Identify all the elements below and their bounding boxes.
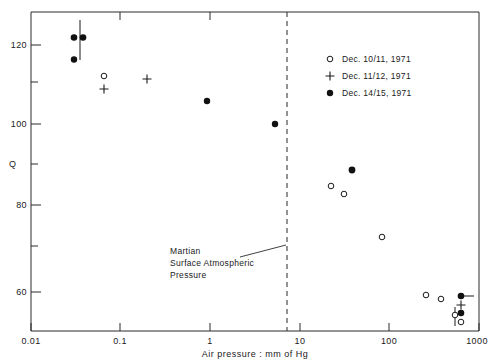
y-axis-title: Q xyxy=(9,159,17,169)
x-tick-label-1: 1 xyxy=(207,336,212,346)
plot-frame xyxy=(31,12,479,331)
scatter-chart-figure: 120 100 80 60 Q 0.01 0.1 1 10 100 1000 xyxy=(0,0,488,362)
annotation-line-3: Pressure xyxy=(170,270,206,280)
y-tick-label-80: 80 xyxy=(16,200,27,210)
data-point-filled xyxy=(349,167,356,174)
data-point-plus xyxy=(457,301,466,310)
data-point-open xyxy=(438,296,444,302)
chart-canvas: 120 100 80 60 Q 0.01 0.1 1 10 100 1000 xyxy=(0,0,488,362)
legend-label-dec-10-11: Dec. 10/11, 1971 xyxy=(342,54,411,64)
x-axis-title: Air pressure : mm of Hg xyxy=(202,349,309,359)
x-axis-ticks xyxy=(31,12,479,331)
data-point-open xyxy=(458,319,464,325)
x-tick-label-10: 10 xyxy=(295,336,306,346)
data-point-filled xyxy=(71,34,78,41)
y-tick-label-100: 100 xyxy=(11,119,27,129)
x-tick-label-1000: 1000 xyxy=(466,336,488,346)
x-tick-label-0.1: 0.1 xyxy=(113,336,127,346)
legend-label-dec-14-15: Dec. 14/15, 1971 xyxy=(342,88,412,98)
legend-label-dec-11-12: Dec. 11/12, 1971 xyxy=(342,71,411,81)
chart-legend: Dec. 10/11, 1971 Dec. 11/12, 1971 Dec. 1… xyxy=(326,54,412,98)
legend-marker-filled-circle xyxy=(327,90,333,96)
x-tick-label-100: 100 xyxy=(381,336,397,346)
data-point-open xyxy=(101,73,107,79)
legend-marker-plus xyxy=(326,72,335,81)
data-point-filled xyxy=(204,98,210,104)
y-tick-label-120: 120 xyxy=(11,40,27,50)
y-tick-label-60: 60 xyxy=(16,287,27,297)
error-bars xyxy=(80,20,474,326)
annotation-leader-line xyxy=(240,245,286,257)
data-point-plus xyxy=(100,85,109,94)
data-point-open xyxy=(452,312,458,318)
y-axis-ticks xyxy=(31,45,41,292)
x-tick-label-0.01: 0.01 xyxy=(21,336,40,346)
series-dec-10-11-points xyxy=(101,73,464,325)
data-point-filled xyxy=(458,293,465,300)
data-point-filled xyxy=(80,34,87,41)
series-dec-11-12-points xyxy=(100,75,466,310)
x-axis-labels: 0.01 0.1 1 10 100 1000 xyxy=(21,336,487,346)
data-point-filled xyxy=(458,310,465,317)
data-point-plus xyxy=(143,75,152,84)
data-point-open xyxy=(379,234,385,240)
data-point-open xyxy=(328,183,334,189)
martian-pressure-annotation: Martian Surface Atmospheric Pressure xyxy=(170,246,255,280)
data-point-open xyxy=(341,191,347,197)
data-point-filled xyxy=(272,121,278,127)
data-point-open xyxy=(423,292,429,298)
data-point-filled xyxy=(71,56,77,62)
legend-marker-open-circle xyxy=(327,56,333,62)
annotation-line-1: Martian xyxy=(170,246,200,256)
annotation-line-2: Surface Atmospheric xyxy=(170,258,255,268)
